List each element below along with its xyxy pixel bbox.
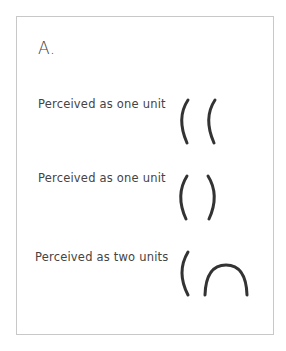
row-1-label: Perceived as one unit [38,97,166,111]
row-2-label: Perceived as one unit [38,171,166,185]
panel-label: A. [38,38,56,58]
row-3-label: Perceived as two units [35,250,168,264]
